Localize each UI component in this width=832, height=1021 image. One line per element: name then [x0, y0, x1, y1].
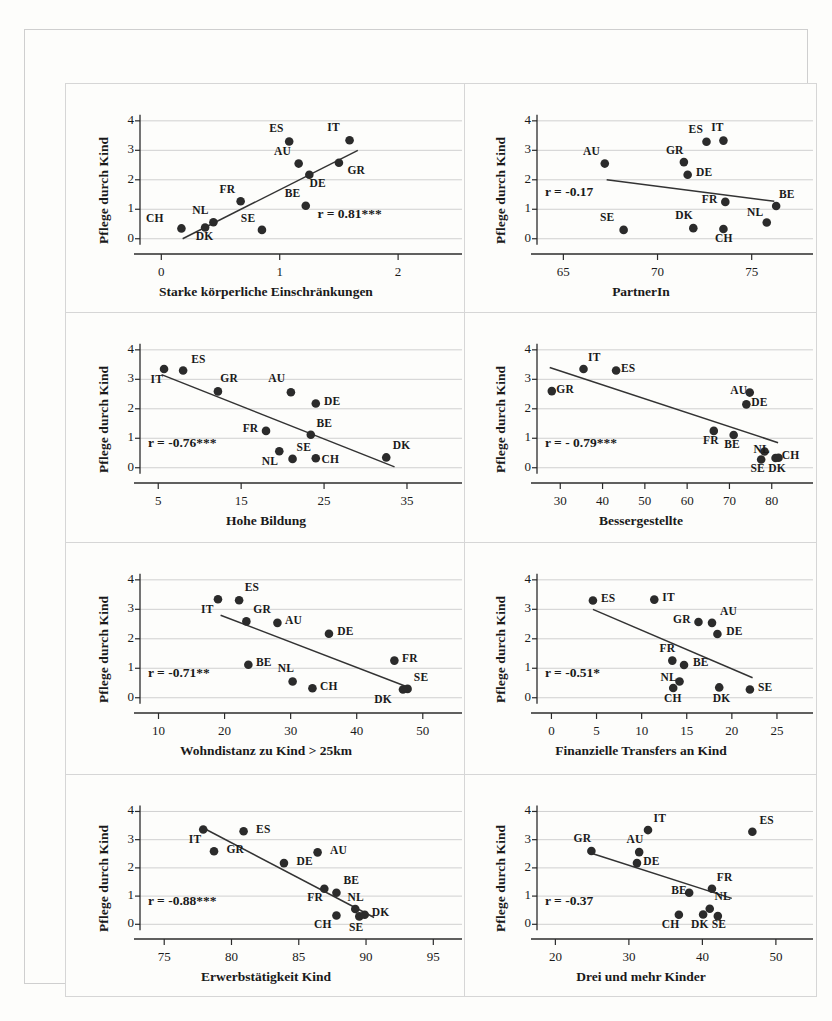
x-tick-label-0: 0: [139, 264, 183, 280]
data-point-FR: [390, 656, 399, 665]
point-label-DK: DK: [374, 693, 392, 705]
data-point-GR: [680, 158, 689, 167]
y-tick-label-1: 1: [507, 659, 531, 675]
y-tick-label-1: 1: [110, 429, 134, 445]
data-point-BE: [680, 661, 689, 670]
point-label-IT: IT: [327, 121, 340, 133]
x-tick-label-60: 60: [665, 493, 709, 509]
point-label-CH: CH: [321, 453, 339, 465]
x-tick-label-80: 80: [209, 949, 253, 965]
point-label-AU: AU: [330, 844, 347, 856]
y-tick-label-3: 3: [507, 831, 531, 847]
x-tick-label-75: 75: [142, 949, 186, 965]
point-label-FR: FR: [402, 652, 418, 664]
data-point-DE: [325, 629, 334, 638]
regression-line: [202, 827, 374, 917]
y-tick-label-4: 4: [507, 112, 531, 128]
scatter-panel-4: 01234304050607080BessergestelltePflege d…: [465, 313, 817, 543]
correlation-annotation: r = 0.81***: [318, 206, 382, 222]
data-point-AU: [708, 619, 717, 628]
point-label-FR: FR: [243, 422, 259, 434]
data-point-IT: [719, 136, 728, 145]
point-label-SE: SE: [349, 921, 363, 933]
scatterplot-panel-grid: 01234012Starke körperliche Einschränkung…: [65, 83, 817, 997]
x-tick-label-30: 30: [607, 949, 651, 965]
scatter-panel-7: 012347580859095Erwerbstätigkeit KindPfle…: [65, 775, 465, 997]
y-tick-label-3: 3: [110, 370, 134, 386]
point-label-DE: DE: [696, 166, 712, 178]
data-point-SE: [288, 455, 297, 464]
point-label-CH: CH: [662, 918, 680, 930]
y-tick-label-4: 4: [110, 341, 134, 357]
correlation-annotation: r = - 0.79***: [545, 435, 617, 451]
point-label-AU: AU: [268, 372, 285, 384]
y-tick-label-3: 3: [110, 600, 134, 616]
data-point-CH: [308, 684, 317, 693]
point-label-NL: NL: [348, 891, 364, 903]
data-point-FR: [262, 427, 271, 436]
y-tick-label-3: 3: [110, 831, 134, 847]
data-point-NL: [762, 218, 771, 227]
point-label-NL: NL: [278, 662, 294, 674]
correlation-annotation: r = -0.51*: [545, 665, 600, 681]
x-tick-label-2: 2: [376, 264, 420, 280]
x-tick-label-70: 70: [707, 493, 751, 509]
correlation-annotation: r = -0.37: [545, 893, 593, 909]
point-label-DK: DK: [393, 439, 411, 451]
y-tick-label-0: 0: [507, 915, 531, 931]
data-point-GR: [214, 387, 223, 396]
scatter-panel-5: 012341020304050Wohndistanz zu Kind > 25k…: [65, 543, 465, 775]
data-point-AU: [287, 388, 296, 397]
point-label-NL: NL: [192, 204, 208, 216]
x-tick-label-10: 10: [620, 723, 664, 739]
point-label-ES: ES: [759, 814, 773, 826]
y-tick-label-2: 2: [507, 859, 531, 875]
x-axis-title: PartnerIn: [465, 284, 817, 300]
y-tick-label-0: 0: [110, 459, 134, 475]
y-axis-title: Pflege durch Kind: [493, 137, 509, 244]
point-label-AU: AU: [274, 145, 291, 157]
y-tick-label-2: 2: [507, 400, 531, 416]
y-tick-label-4: 4: [110, 112, 134, 128]
data-point-SE: [746, 685, 755, 694]
data-point-DE: [683, 170, 692, 179]
point-label-SE: SE: [750, 462, 764, 474]
data-point-NL: [351, 905, 360, 914]
point-label-SE: SE: [297, 441, 311, 453]
point-label-NL: NL: [753, 443, 769, 455]
y-tick-label-3: 3: [507, 141, 531, 157]
x-tick-label-20: 20: [710, 723, 754, 739]
point-label-DK: DK: [675, 209, 693, 221]
point-label-BE: BE: [316, 417, 332, 429]
point-label-SE: SE: [712, 918, 726, 930]
data-point-ES: [612, 366, 621, 375]
point-label-FR: FR: [702, 193, 718, 205]
point-label-GR: GR: [226, 843, 244, 855]
point-label-IT: IT: [151, 373, 164, 385]
data-point-DE: [280, 859, 289, 868]
point-label-DE: DE: [751, 396, 767, 408]
y-tick-label-3: 3: [110, 141, 134, 157]
y-axis-title: Pflege durch Kind: [96, 137, 112, 244]
point-label-IT: IT: [654, 812, 667, 824]
scatter-panel-2: 01234657075PartnerInPflege durch KindAUS…: [465, 83, 817, 313]
point-label-BE: BE: [779, 188, 795, 200]
point-label-DE: DE: [337, 625, 353, 637]
y-tick-label-2: 2: [110, 400, 134, 416]
y-tick-label-1: 1: [507, 200, 531, 216]
regression-line: [607, 180, 775, 202]
y-tick-label-2: 2: [507, 171, 531, 187]
x-tick-label-40: 40: [680, 949, 724, 965]
correlation-annotation: r = -0.76***: [148, 435, 217, 451]
y-tick-label-0: 0: [507, 230, 531, 246]
point-label-IT: IT: [201, 603, 214, 615]
data-point-GR: [242, 617, 251, 626]
y-tick-label-0: 0: [110, 915, 134, 931]
point-label-DE: DE: [643, 855, 659, 867]
y-axis-title: Pflege durch Kind: [96, 825, 112, 932]
x-axis-title: Erwerbstätigkeit Kind: [66, 969, 465, 985]
data-point-AU: [273, 619, 282, 628]
regression-line: [183, 150, 358, 238]
data-point-BE: [244, 660, 253, 669]
x-tick-label-10: 10: [137, 723, 181, 739]
